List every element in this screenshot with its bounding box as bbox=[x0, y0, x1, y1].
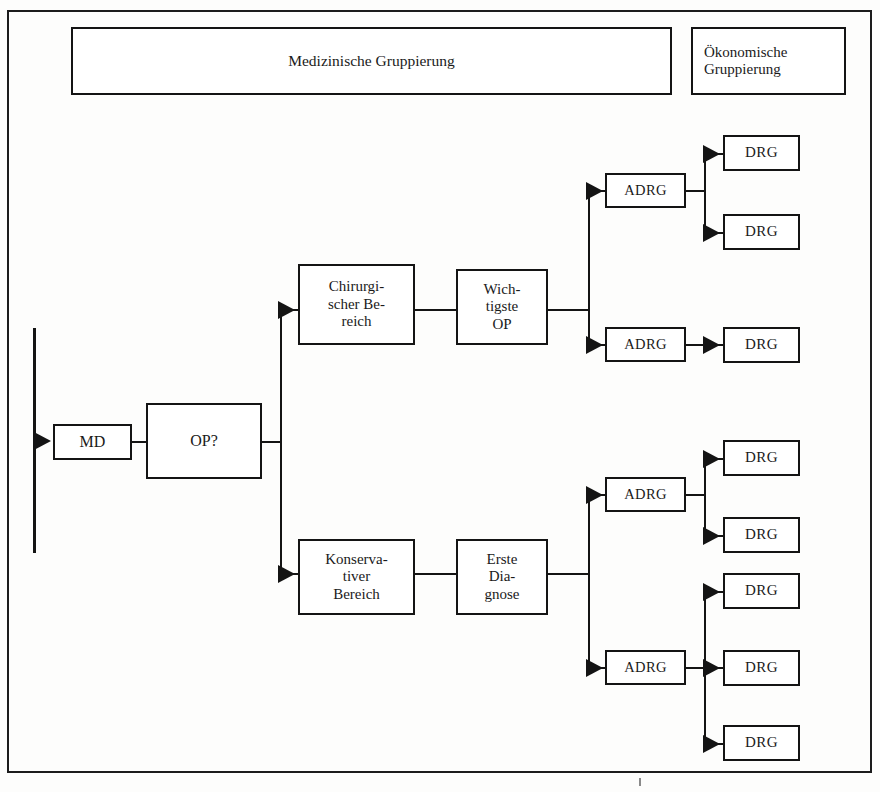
arrow-into-drg4 bbox=[703, 450, 720, 468]
split-vertical-adrg1 bbox=[704, 153, 706, 232]
node-drg-2-label: DRG bbox=[745, 223, 778, 240]
connector-adrg3-to-split bbox=[686, 494, 706, 496]
node-drg-8-label: DRG bbox=[745, 734, 778, 751]
node-adrg-3: ADRG bbox=[605, 477, 686, 512]
connector-adrg1-to-split bbox=[686, 190, 706, 192]
split-vertical-firstdiag bbox=[588, 494, 590, 667]
scan-artifact-mark bbox=[639, 778, 641, 786]
node-conservative-area: Konserva- tiver Bereich bbox=[298, 539, 415, 615]
node-drg-4: DRG bbox=[723, 440, 800, 476]
node-surgical-area: Chirurgi- scher Be- reich bbox=[298, 264, 415, 345]
node-adrg-4-label: ADRG bbox=[624, 659, 667, 676]
node-conservative-area-label: Konserva- tiver Bereich bbox=[325, 551, 387, 603]
node-drg-1-label: DRG bbox=[745, 144, 778, 161]
node-op-question-label: OP? bbox=[190, 432, 218, 451]
header-label-medizinische-gruppierung: Medizinische Gruppierung bbox=[288, 52, 455, 70]
node-drg-6: DRG bbox=[723, 573, 800, 609]
node-drg-1: DRG bbox=[723, 135, 800, 171]
node-md: MD bbox=[53, 424, 132, 460]
header-box-medizinische-gruppierung: Medizinische Gruppierung bbox=[71, 27, 672, 95]
arrow-into-adrg3 bbox=[586, 486, 603, 504]
connector-conservative-to-firstdiag bbox=[415, 573, 456, 575]
header-box-oekonomische-gruppierung: Ökonomische Gruppierung bbox=[691, 27, 846, 95]
node-drg-8: DRG bbox=[723, 725, 800, 761]
connector-surgical-to-mainop bbox=[415, 309, 456, 311]
node-first-diagnosis-label: Erste Dia- gnose bbox=[485, 551, 520, 603]
node-md-label: MD bbox=[80, 433, 106, 452]
connector-firstdiag-to-split bbox=[548, 573, 590, 575]
arrow-into-drg3 bbox=[703, 336, 720, 354]
split-vertical-op bbox=[280, 309, 282, 573]
connector-mainop-to-split bbox=[548, 309, 590, 311]
node-drg-5-label: DRG bbox=[745, 526, 778, 543]
node-adrg-1: ADRG bbox=[605, 173, 686, 208]
node-drg-3: DRG bbox=[723, 327, 800, 363]
connector-md-to-op bbox=[132, 441, 146, 443]
connector-op-to-split bbox=[262, 441, 282, 443]
diagram-canvas: Medizinische Gruppierung Ökonomische Gru… bbox=[0, 0, 880, 792]
split-vertical-mainop bbox=[588, 190, 590, 345]
node-drg-4-label: DRG bbox=[745, 449, 778, 466]
arrow-into-drg7 bbox=[703, 659, 720, 677]
node-main-op: Wich- tigste OP bbox=[456, 269, 548, 345]
node-adrg-2: ADRG bbox=[605, 327, 686, 362]
node-adrg-3-label: ADRG bbox=[624, 486, 667, 503]
node-first-diagnosis: Erste Dia- gnose bbox=[456, 539, 548, 615]
node-drg-2: DRG bbox=[723, 214, 800, 250]
arrow-into-surgical-area bbox=[278, 301, 295, 319]
arrow-into-adrg4 bbox=[586, 659, 603, 677]
split-vertical-adrg3 bbox=[704, 458, 706, 535]
node-drg-6-label: DRG bbox=[745, 582, 778, 599]
node-drg-5: DRG bbox=[723, 517, 800, 553]
arrow-into-drg1 bbox=[703, 145, 720, 163]
node-adrg-4: ADRG bbox=[605, 650, 686, 685]
node-adrg-1-label: ADRG bbox=[624, 182, 667, 199]
arrow-into-drg8 bbox=[703, 735, 720, 753]
node-surgical-area-label: Chirurgi- scher Be- reich bbox=[328, 278, 385, 330]
node-drg-3-label: DRG bbox=[745, 336, 778, 353]
node-drg-7-label: DRG bbox=[745, 659, 778, 676]
arrow-into-drg2 bbox=[703, 224, 720, 242]
arrow-into-md bbox=[34, 432, 51, 450]
arrow-into-drg5 bbox=[703, 527, 720, 545]
node-main-op-label: Wich- tigste OP bbox=[484, 281, 521, 333]
arrow-into-conservative-area bbox=[278, 565, 295, 583]
node-op-question: OP? bbox=[146, 403, 262, 479]
arrow-into-adrg1 bbox=[586, 182, 603, 200]
header-label-oekonomische-gruppierung: Ökonomische Gruppierung bbox=[704, 44, 787, 79]
arrow-into-adrg2 bbox=[586, 336, 603, 354]
node-adrg-2-label: ADRG bbox=[624, 336, 667, 353]
node-drg-7: DRG bbox=[723, 650, 800, 686]
arrow-into-drg6 bbox=[703, 583, 720, 601]
